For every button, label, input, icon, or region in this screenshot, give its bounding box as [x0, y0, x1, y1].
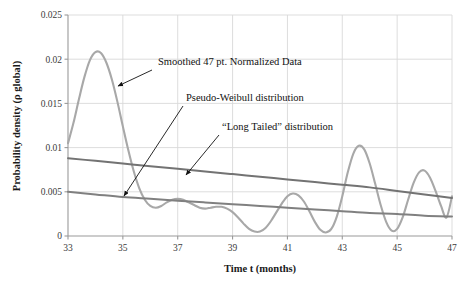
y-tick-label: 0 [57, 231, 62, 241]
y-tick-label: 0.025 [41, 10, 63, 20]
chart-container: 00.0050.010.0150.020.025 333537394143454… [0, 0, 467, 288]
y-tick-label: 0.01 [45, 143, 62, 153]
y-tick-label: 0.02 [45, 55, 62, 65]
annotation-label-long-tailed: “Long Tailed” distribution [222, 121, 334, 132]
x-tick-label: 33 [63, 243, 73, 253]
x-tick-label: 47 [447, 243, 457, 253]
x-tick-label: 41 [283, 243, 293, 253]
x-tick-label: 37 [173, 243, 183, 253]
x-tick-label: 45 [392, 243, 402, 253]
annotation-label-smoothed-data: Smoothed 47 pt. Normalized Data [158, 56, 302, 67]
probability-density-chart: 00.0050.010.0150.020.025 333537394143454… [0, 0, 467, 288]
x-axis-title: Time t (months) [224, 263, 297, 275]
x-tick-label: 35 [118, 243, 128, 253]
x-tick-label: 39 [228, 243, 238, 253]
y-tick-label: 0.015 [41, 99, 63, 109]
y-tick-label: 0.005 [41, 187, 63, 197]
y-axis-title: Probability density (ρ global) [11, 60, 23, 191]
x-tick-label: 43 [338, 243, 348, 253]
annotation-label-pseudo-weibull: Pseudo-Weibull distribution [186, 92, 305, 103]
